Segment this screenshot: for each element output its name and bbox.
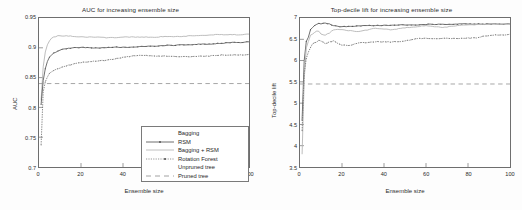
series-marker: [234, 54, 235, 55]
series-marker: [474, 37, 475, 38]
series-marker: [398, 41, 399, 42]
series-marker: [495, 34, 496, 35]
y-axis-ticks-lift: 3.5 4 4.5 5 5.5 6 6.5 7: [261, 0, 299, 210]
series-marker: [402, 24, 403, 25]
series-marker: [373, 25, 374, 26]
series-marker: [377, 25, 378, 26]
series-marker: [360, 42, 361, 43]
series-marker: [154, 55, 155, 56]
series-marker: [440, 38, 441, 39]
chart-panel-auc: AUC for increasing ensemble size AUC 0.7…: [0, 0, 261, 210]
series-marker: [74, 63, 75, 64]
y-tick: 0.9: [2, 44, 38, 50]
series-marker: [217, 43, 218, 44]
legend-auc[interactable]: Bagging RSM Bagging + RSM Rotation Fores…: [141, 126, 249, 182]
chart-panel-lift: Top-decile lift for increasing ensemble …: [261, 0, 522, 210]
series-marker: [167, 45, 168, 46]
plot-area-lift: [299, 17, 511, 168]
series-marker: [112, 47, 113, 48]
series-marker: [57, 68, 58, 69]
legend-label: Rotation Forest: [178, 155, 218, 163]
y-tick: 5: [263, 100, 299, 106]
x-tick: 80: [465, 171, 471, 177]
series-marker: [415, 38, 416, 39]
y-tick: 0.75: [2, 135, 38, 141]
series-marker: [411, 39, 412, 40]
series-marker: [356, 43, 357, 44]
y-tick: 6: [263, 57, 299, 63]
series-marker: [344, 44, 345, 45]
series-marker: [162, 45, 163, 46]
series-marker: [373, 42, 374, 43]
series-marker: [327, 42, 328, 43]
series-marker: [465, 38, 466, 39]
series-marker: [470, 38, 471, 39]
series-marker: [503, 35, 504, 36]
x-axis-label-lift: Ensemble size: [299, 188, 511, 194]
legend-label: Pruned tree: [178, 172, 208, 180]
series-marker: [137, 55, 138, 56]
series-marker: [323, 23, 324, 24]
series-marker: [310, 47, 311, 48]
series-marker: [302, 130, 303, 131]
series-marker: [171, 45, 172, 46]
series-marker: [95, 61, 96, 62]
series-marker: [348, 26, 349, 27]
series-marker: [204, 56, 205, 57]
series-marker: [486, 35, 487, 36]
series-marker: [167, 56, 168, 57]
series-marker: [209, 56, 210, 57]
series-marker: [45, 81, 46, 82]
series-marker: [104, 47, 105, 48]
series-marker: [217, 55, 218, 56]
series-marker: [478, 37, 479, 38]
series-marker: [449, 24, 450, 25]
series-marker: [423, 38, 424, 39]
legend-label: Bagging + RSM: [178, 146, 219, 154]
series-marker: [53, 52, 54, 53]
series-marker: [238, 55, 239, 56]
series-marker: [62, 67, 63, 68]
series-marker: [209, 43, 210, 44]
series-marker: [386, 41, 387, 42]
series-marker: [238, 42, 239, 43]
series-marker: [91, 47, 92, 48]
series-marker: [352, 44, 353, 45]
series-marker: [491, 35, 492, 36]
series-marker: [41, 104, 42, 105]
series-marker: [348, 45, 349, 46]
series-marker: [306, 58, 307, 59]
y-tick: 0.95: [2, 14, 38, 20]
series-marker: [141, 55, 142, 56]
series-marker: [120, 47, 121, 48]
series-marker: [415, 25, 416, 26]
series-bagging-rsm: [41, 34, 249, 100]
x-tick: 40: [381, 171, 387, 177]
series-marker: [390, 25, 391, 26]
series-marker: [453, 38, 454, 39]
legend-line-rotation-forest: [145, 155, 175, 163]
series-marker: [432, 24, 433, 25]
series-marker: [365, 42, 366, 43]
series-marker: [246, 54, 247, 55]
series-marker: [407, 40, 408, 41]
series-marker: [386, 25, 387, 26]
series-marker: [95, 47, 96, 48]
series-marker: [230, 42, 231, 43]
legend-line-pruned-tree: [145, 172, 175, 180]
series-marker: [137, 46, 138, 47]
series-marker: [499, 35, 500, 36]
series-marker: [196, 44, 197, 45]
series-marker: [129, 56, 130, 57]
series-marker: [188, 56, 189, 57]
y-tick: 0.8: [2, 105, 38, 111]
series-marker: [41, 144, 42, 145]
series-rsm: [41, 42, 249, 105]
series-marker: [246, 41, 247, 42]
series-marker: [440, 24, 441, 25]
series-marker: [339, 26, 340, 27]
x-tick: 0: [297, 171, 300, 177]
series-marker: [449, 38, 450, 39]
series-marker: [335, 42, 336, 43]
series-marker: [394, 25, 395, 26]
